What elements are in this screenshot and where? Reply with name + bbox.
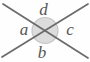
angle-label-c: c xyxy=(66,20,74,39)
angle-label-d: d xyxy=(39,0,48,19)
diagram-canvas: d a c b xyxy=(0,0,90,62)
vertical-angles-diagram: d a c b xyxy=(0,0,90,62)
angle-label-b: b xyxy=(38,43,47,62)
angle-label-a: a xyxy=(20,20,29,39)
